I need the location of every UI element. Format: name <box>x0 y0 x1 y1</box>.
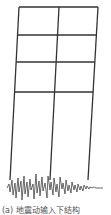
right-column <box>88 7 98 180</box>
middle-column <box>50 7 59 180</box>
left-column <box>10 7 19 180</box>
frame-diagram <box>0 0 111 215</box>
figure-caption: (a) 地震动输入下结构 <box>2 206 80 215</box>
deformed-frame <box>10 7 98 180</box>
